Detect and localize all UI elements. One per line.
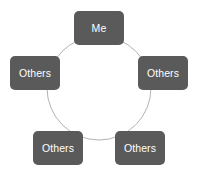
cycle-node-me[interactable]: Me bbox=[74, 11, 124, 45]
cycle-node-label: Me bbox=[92, 23, 107, 34]
cycle-ring-circle bbox=[47, 36, 151, 140]
cycle-node-others-bottom-right[interactable]: Others bbox=[115, 131, 165, 165]
cycle-node-label: Others bbox=[19, 68, 51, 79]
cycle-node-label: Others bbox=[147, 68, 179, 79]
cycle-diagram: Me Others Others Others Others bbox=[0, 0, 198, 177]
cycle-node-others-bottom-left[interactable]: Others bbox=[33, 131, 83, 165]
cycle-node-others-left[interactable]: Others bbox=[10, 56, 60, 90]
cycle-node-label: Others bbox=[124, 143, 156, 154]
cycle-node-others-right[interactable]: Others bbox=[138, 56, 188, 90]
cycle-node-label: Others bbox=[42, 143, 74, 154]
